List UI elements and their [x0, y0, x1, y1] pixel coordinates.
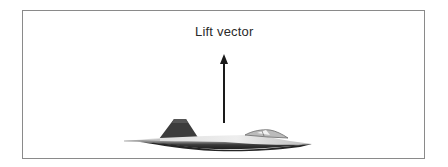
lift-arrow-icon	[220, 54, 228, 123]
aircraft-diagram	[0, 0, 448, 167]
aircraft-icon	[124, 119, 312, 151]
